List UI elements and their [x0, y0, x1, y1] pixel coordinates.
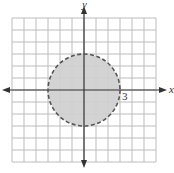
x-axis-left-arrow-icon: [2, 87, 10, 93]
y-axis-label: y: [81, 0, 87, 10]
coordinate-plane: x y 3: [0, 0, 174, 173]
tick-label-3: 3: [122, 90, 128, 102]
x-axis-label: x: [168, 83, 174, 95]
x-axis-right-arrow-icon: [159, 87, 167, 93]
y-axis-down-arrow-icon: [81, 160, 87, 168]
